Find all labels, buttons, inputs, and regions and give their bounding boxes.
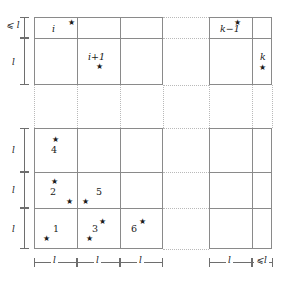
measure-label-col-right-1: l xyxy=(226,256,233,265)
measure-label-col-2: l xyxy=(94,256,101,265)
lower-right-block xyxy=(209,128,272,249)
lower-right-col-divider xyxy=(252,128,253,249)
lower-right-row-divider-2 xyxy=(209,208,272,209)
upper-left-col-divider-2 xyxy=(120,17,121,85)
dotted-connector-upper-middle xyxy=(163,38,209,39)
measure-upper-row-1: ⩽ l xyxy=(20,17,29,38)
star-marker-cell-3-top: ★ xyxy=(99,218,106,226)
lower-right-row-divider-1 xyxy=(209,172,272,173)
cell-label-1: 1 xyxy=(53,224,59,234)
figure-canvas: i ★ i+1 ★ k−1 ★ k ★ ★ 4 ★ 2 ★ 5 ★ 1 ★ 3 … xyxy=(0,0,292,284)
dotted-connector-lower-middle-lower xyxy=(163,208,209,209)
dotted-connector-vertical-col3 xyxy=(163,85,164,128)
measure-col-right-1: l xyxy=(209,258,252,267)
star-marker-cell-k-minus-1: ★ xyxy=(234,19,241,27)
dotted-connector-vertical-col2 xyxy=(120,85,121,128)
star-marker-cell-3-bottom: ★ xyxy=(86,235,93,243)
measure-label-lower-row-3: l xyxy=(11,224,16,235)
measure-lower-row-2: l xyxy=(20,172,29,208)
measure-label-col-right-2: ⩽l xyxy=(254,256,269,265)
measure-col-1: l xyxy=(34,258,77,267)
upper-right-row-divider xyxy=(209,38,272,39)
cell-label-2: 2 xyxy=(50,187,56,197)
star-marker-cell-5: ★ xyxy=(82,198,89,206)
dotted-connector-vertical-right-left xyxy=(209,85,210,128)
star-marker-cell-1: ★ xyxy=(43,235,50,243)
dotted-connector-lower-bottom xyxy=(163,249,209,250)
measure-label-upper-row-1: ⩽ l xyxy=(5,20,21,31)
cell-label-6: 6 xyxy=(131,224,137,234)
star-marker-cell-2-top: ★ xyxy=(51,178,58,186)
dotted-connector-upper-bottom xyxy=(163,85,209,86)
star-marker-cell-k: ★ xyxy=(259,64,266,72)
lower-left-col-divider-1 xyxy=(77,128,78,249)
measure-label-upper-row-2: l xyxy=(11,57,16,68)
upper-left-col-divider-1 xyxy=(77,17,78,85)
measure-lower-row-3: l xyxy=(20,208,29,249)
cell-label-k: k xyxy=(260,52,266,62)
measure-label-lower-row-1: l xyxy=(11,145,16,156)
measure-col-right-2: ⩽l xyxy=(252,258,273,267)
dotted-connector-lower-top xyxy=(163,128,209,129)
star-marker-cell-2-bottom: ★ xyxy=(66,198,73,206)
measure-label-col-1: l xyxy=(51,256,58,265)
dotted-connector-vertical-left xyxy=(34,85,35,128)
dotted-connector-vertical-right-right xyxy=(272,85,273,128)
cell-label-5: 5 xyxy=(96,187,102,197)
lower-left-col-divider-2 xyxy=(120,128,121,249)
star-marker-cell-i-plus-1: ★ xyxy=(96,63,103,71)
star-marker-cell-4: ★ xyxy=(52,136,59,144)
upper-left-row-divider xyxy=(34,38,163,39)
cell-label-i: i xyxy=(52,24,55,34)
star-marker-cell-6: ★ xyxy=(139,218,146,226)
dotted-connector-lower-middle-upper xyxy=(163,172,209,173)
dotted-connector-upper-top xyxy=(163,17,209,18)
cell-label-4: 4 xyxy=(51,145,57,155)
measure-col-2: l xyxy=(77,258,120,267)
dotted-connector-vertical-col1 xyxy=(77,85,78,128)
lower-left-row-divider-1 xyxy=(34,172,163,173)
lower-left-row-divider-2 xyxy=(34,208,163,209)
measure-label-col-3: l xyxy=(137,256,144,265)
measure-label-lower-row-2: l xyxy=(11,185,16,196)
upper-right-col-divider xyxy=(252,17,253,85)
star-marker-cell-i: ★ xyxy=(68,19,75,27)
cell-label-i-plus-1: i+1 xyxy=(88,52,105,62)
measure-upper-row-2: l xyxy=(20,38,29,85)
dotted-connector-vertical-right-mid xyxy=(252,85,253,128)
measure-lower-row-1: l xyxy=(20,128,29,172)
measure-col-3: l xyxy=(120,258,163,267)
cell-label-3: 3 xyxy=(92,224,98,234)
